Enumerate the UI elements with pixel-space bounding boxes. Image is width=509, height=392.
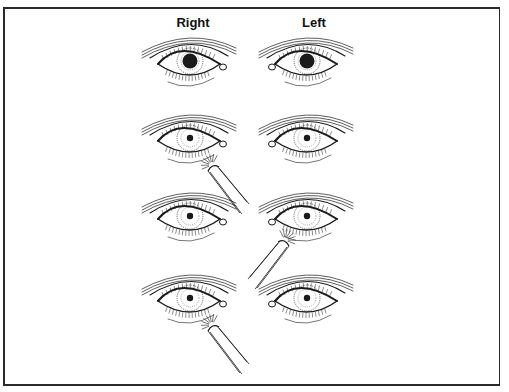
flashlight-row-4	[201, 314, 249, 374]
flashlight-shaft	[208, 171, 240, 213]
flashlight-row-2	[201, 154, 249, 214]
caruncle	[220, 301, 227, 307]
flashlight-shaft	[257, 246, 289, 288]
lower-lid	[158, 219, 220, 230]
pupil	[183, 54, 198, 69]
flashlight-shaft	[210, 332, 242, 374]
left-eye-row-4	[259, 275, 353, 323]
lower-lid	[275, 219, 337, 230]
right-eye-row-1	[142, 38, 236, 86]
right-eye-row-2	[142, 115, 236, 163]
caruncle	[269, 141, 276, 147]
flashlight-shaft	[208, 331, 240, 373]
left-eye-row-3	[259, 193, 353, 241]
right-eye-row-4	[142, 275, 236, 323]
caruncle	[220, 141, 227, 147]
flashlight-shaft	[210, 172, 242, 214]
eye-illustration	[0, 0, 509, 392]
caruncle	[220, 219, 227, 225]
pupil	[187, 213, 193, 219]
pupil	[304, 213, 310, 219]
flashlight-shaft	[219, 168, 249, 204]
left-eye-row-2	[259, 115, 353, 163]
flashlight-shaft	[219, 328, 249, 364]
caruncle	[269, 301, 276, 307]
flashlight-shaft	[248, 243, 278, 279]
caruncle	[220, 64, 227, 70]
lower-lid	[158, 301, 220, 312]
pupil	[187, 135, 193, 141]
pupil	[304, 295, 310, 301]
lower-lid	[275, 141, 337, 152]
left-eye-row-1	[259, 38, 353, 86]
pupil	[304, 135, 310, 141]
caruncle	[269, 64, 276, 70]
pupil	[300, 54, 315, 69]
lower-lid	[275, 301, 337, 312]
pupil	[187, 295, 193, 301]
flashlight-shaft	[255, 247, 287, 289]
caruncle	[269, 219, 276, 225]
lower-lid	[158, 141, 220, 152]
right-eye-row-3	[142, 193, 236, 241]
